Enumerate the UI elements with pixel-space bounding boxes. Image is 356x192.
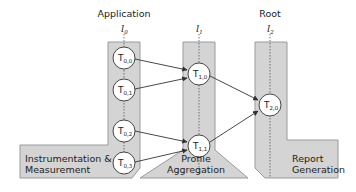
level-label-0: l0	[121, 23, 128, 35]
edge-t10-t20	[210, 76, 258, 100]
header-application: Application	[97, 8, 150, 19]
edge-t01-t10	[135, 78, 187, 89]
node-t10: T1,0	[188, 63, 210, 85]
edge-t00-t10	[135, 59, 187, 70]
edge-t11-t20	[210, 111, 258, 142]
header-root: Root	[259, 8, 281, 19]
node-t11: T1,1	[188, 135, 210, 157]
tree-reduction-diagram: Application Root l0 l1 l2 Instrumentatio…	[0, 0, 356, 192]
node-t03: T0,3	[113, 152, 135, 174]
node-t00: T0,0	[113, 47, 135, 69]
level-label-2: l2	[267, 23, 274, 35]
node-t01: T0,1	[113, 79, 135, 101]
level-label-1: l1	[196, 23, 203, 35]
stage-label-aggregation: Aggregation	[167, 164, 225, 175]
edge-t02-t11	[135, 131, 187, 142]
stage-label-report: Report	[292, 153, 324, 164]
stage-label-instrumentation: Instrumentation &	[25, 153, 112, 164]
stage-label-measurement: Measurement	[25, 164, 90, 175]
stage-label-generation: Generation	[292, 164, 345, 175]
node-t02: T0,2	[113, 120, 135, 142]
node-t20: T2,0	[259, 94, 281, 116]
